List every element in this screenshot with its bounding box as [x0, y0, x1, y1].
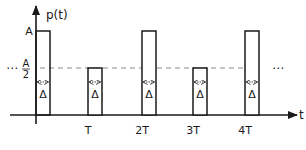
- pulse-train-diagram: Δ Δ Δ Δ Δ p(t) t A A 2 ⋯ ⋯ T 2T 3T 4T: [0, 0, 306, 150]
- ellipsis-left: ⋯: [6, 61, 18, 75]
- tick-label-3T: 3T: [186, 124, 200, 137]
- level-high-label: A: [25, 25, 33, 38]
- pulse-2T: [142, 31, 156, 115]
- level-half-numerator: A: [23, 58, 30, 69]
- level-half-denominator: 2: [23, 69, 29, 80]
- tick-label-T: T: [84, 124, 92, 137]
- y-axis-label: p(t): [46, 8, 68, 22]
- pulse-0: [36, 31, 50, 115]
- pulse-4T: [245, 31, 259, 115]
- delta-label-0: Δ: [39, 88, 47, 101]
- ellipsis-right: ⋯: [272, 61, 284, 75]
- delta-label-T: Δ: [91, 88, 99, 101]
- tick-label-4T: 4T: [238, 124, 252, 137]
- delta-label-4T: Δ: [248, 88, 256, 101]
- delta-label-3T: Δ: [196, 88, 204, 101]
- tick-label-2T: 2T: [135, 124, 149, 137]
- delta-label-2T: Δ: [145, 88, 153, 101]
- x-axis-label: t: [299, 108, 304, 122]
